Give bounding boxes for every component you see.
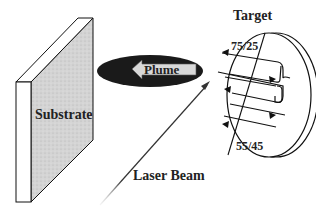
plume-label: Plume: [144, 62, 180, 77]
laser-beam-label: Laser Beam: [133, 168, 205, 183]
composition-top-label: 75/25: [231, 39, 258, 53]
substrate: Substrate: [16, 18, 93, 202]
substrate-front-edge: [16, 82, 31, 202]
composition-bottom-label: 55/45: [236, 139, 263, 153]
target-label: Target: [233, 8, 272, 23]
arrowhead-icon: [222, 49, 229, 56]
pld-diagram: Substrate Laser Beam Target 75/25 55/45 …: [0, 0, 316, 214]
plume: Plume: [97, 55, 203, 87]
substrate-label: Substrate: [35, 107, 93, 122]
target: Target 75/25 55/45: [218, 8, 316, 157]
laser-beam: Laser Beam: [100, 81, 210, 205]
arrowhead-icon: [222, 121, 229, 128]
laser-arrowhead-icon: [201, 81, 210, 90]
